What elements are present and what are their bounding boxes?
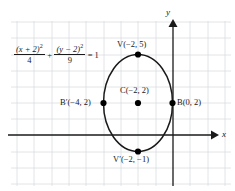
label-covertex-right: B(0, 2) [177, 98, 201, 107]
equation-term-1: (x + 2)2 4 [14, 45, 45, 65]
axis-label-x: x [222, 130, 226, 139]
point-covertex-left [100, 100, 106, 106]
equation-term-1-numerator: (x + 2)2 [14, 45, 45, 54]
equation-term-2-numerator: (y − 2)2 [54, 45, 85, 54]
label-center: C(−2, 2) [120, 86, 149, 95]
ellipse-equation: (x + 2)2 4 + (y − 2)2 9 = 1 [13, 45, 100, 65]
label-covertex-left: B′(−4, 2) [60, 98, 91, 107]
ellipse-graph-figure: (x + 2)2 4 + (y − 2)2 9 = 1 V(−2, 5) V′(… [0, 0, 235, 191]
axis-label-y: y [166, 8, 170, 17]
equation-equals: = 1 [88, 50, 99, 60]
point-center [135, 100, 141, 106]
label-vertex-bottom: V′(−2, −1) [113, 155, 149, 164]
equation-operator: + [47, 50, 52, 60]
equation-term-2: (y − 2)2 9 [54, 45, 85, 65]
point-vertex-top [135, 51, 141, 57]
equation-term-2-denominator: 9 [66, 55, 74, 64]
point-covertex-right [169, 100, 175, 106]
label-vertex-top: V(−2, 5) [117, 40, 146, 49]
equation-term-1-denominator: 4 [25, 55, 33, 64]
